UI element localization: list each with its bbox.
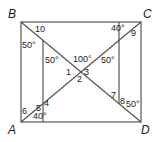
angle-2-label: 2 xyxy=(77,75,82,84)
angle-inner-right-50-label: 50° xyxy=(101,56,115,65)
angle-d-50-label: 50° xyxy=(126,100,140,109)
angle-inner-left-50-label: 50° xyxy=(45,56,59,65)
angle-6-label: 6 xyxy=(22,107,27,116)
vertex-b-label: B xyxy=(8,8,16,20)
angle-1-label: 1 xyxy=(66,68,71,77)
vertex-c-label: C xyxy=(143,8,152,20)
angle-10-label: 10 xyxy=(35,25,45,34)
angle-3-label: 3 xyxy=(84,68,89,77)
vertex-a-label: A xyxy=(8,124,16,136)
angle-7-label: 7 xyxy=(111,91,116,100)
angle-8-label: 8 xyxy=(120,97,125,106)
angle-center-100-label: 100° xyxy=(73,55,92,64)
geometry-figure xyxy=(0,0,157,142)
angle-b-50-label: 50° xyxy=(22,41,36,50)
angle-a-40-label: 40° xyxy=(33,112,47,121)
vertex-d-label: D xyxy=(141,124,150,136)
angle-9-label: 9 xyxy=(131,29,136,38)
angle-4-label: 4 xyxy=(44,99,49,108)
angle-c-40-label: 40° xyxy=(111,24,125,33)
